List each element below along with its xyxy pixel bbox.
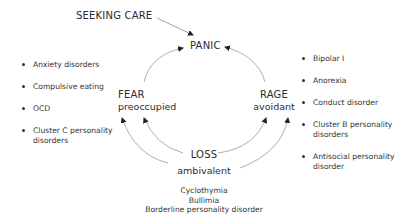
list-item: Cluster C personalitydisorders [20,126,112,146]
loss-condition: Cyclothymia [134,186,274,196]
list-item: Anxiety disorders [20,60,112,70]
bullet-icon [22,63,25,66]
list-item: Conduct disorder [300,98,395,108]
loss-node: LOSS ambivalent [176,148,232,177]
bullet-icon [302,79,305,82]
fear-title: FEAR [118,89,176,101]
rage-conditions-list: Bipolar I Anorexia Conduct disorder Clus… [300,54,395,172]
bullet-icon [302,123,305,126]
loss-conditions-list: Cyclothymia Bullimia Borderline personal… [134,186,274,215]
fear-conditions-list: Anxiety disorders Compulsive eating OCD … [20,60,112,146]
rage-node: RAGE avoidant [252,89,296,113]
arrow-ambivalent-to-fear-outer [122,118,168,163]
loss-title: LOSS [176,148,232,161]
panic-node: PANIC [190,40,221,51]
fear-subtitle: preoccupied [118,101,176,113]
list-item: Compulsive eating [20,82,112,92]
arrow-fear-to-panic [144,48,183,82]
rage-subtitle: avoidant [252,101,296,113]
loss-condition: Borderline personality disorder [134,205,274,215]
bullet-icon [302,57,305,60]
list-item: OCD [20,104,112,114]
loss-condition: Bullimia [134,196,274,206]
bullet-icon [22,129,25,132]
list-item: Cluster B personalitydisorders [300,120,395,140]
seeking-care-label: SEEKING CARE [76,10,152,21]
rage-title: RAGE [252,89,296,101]
bullet-icon [22,85,25,88]
list-item: Bipolar I [300,54,395,64]
list-item: Anorexia [300,76,395,86]
bullet-icon [22,107,25,110]
bullet-icon [302,101,305,104]
arrow-seeking-care-to-panic [157,18,193,35]
arrow-rage-to-panic [225,47,265,82]
bullet-icon [302,155,305,158]
list-item: Antisocial personalitydisorder [300,152,395,172]
fear-node: FEAR preoccupied [118,89,176,113]
loss-subtitle: ambivalent [176,164,232,177]
